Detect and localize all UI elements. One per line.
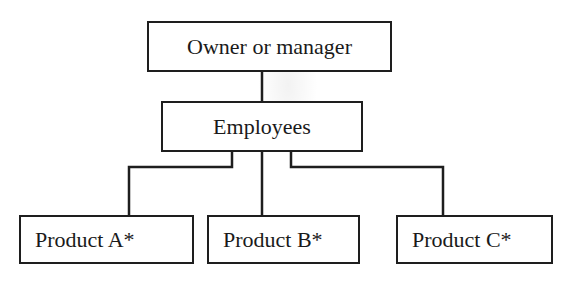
connector-employees-product-a bbox=[129, 151, 232, 215]
node-label: Product A* bbox=[35, 229, 135, 251]
node-product-c: Product C* bbox=[396, 215, 553, 264]
node-label: Product C* bbox=[412, 229, 512, 251]
node-label: Owner or manager bbox=[187, 36, 352, 58]
node-product-a: Product A* bbox=[19, 215, 194, 264]
node-owner-or-manager: Owner or manager bbox=[147, 21, 392, 72]
node-label: Employees bbox=[213, 116, 311, 138]
node-employees: Employees bbox=[161, 101, 363, 152]
node-product-b: Product B* bbox=[207, 215, 360, 264]
node-label: Product B* bbox=[223, 229, 323, 251]
connector-employees-product-c bbox=[291, 151, 443, 215]
org-chart-diagram: Owner or manager Employees Product A* Pr… bbox=[0, 0, 572, 287]
